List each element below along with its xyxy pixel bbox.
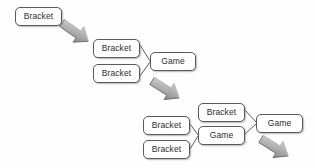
connector-line-s3-mid-top <box>245 110 256 122</box>
connector-group-stage-2 <box>140 45 150 76</box>
connector-line-s3-left-bottom <box>190 136 198 149</box>
node-bracket-stage2-top[interactable]: Bracket <box>93 39 140 58</box>
arrow-shape-2 <box>147 73 184 106</box>
stage-transition-arrow-1 <box>57 15 94 49</box>
node-game-stage3-right[interactable]: Game <box>256 114 303 133</box>
node-label: Bracket <box>207 108 237 117</box>
node-label: Game <box>210 131 234 140</box>
node-bracket-stage2-bottom[interactable]: Bracket <box>93 64 140 83</box>
node-game-stage3-mid[interactable]: Game <box>198 126 245 145</box>
node-game-stage2[interactable]: Game <box>150 52 196 71</box>
node-label: Bracket <box>102 44 132 53</box>
stage-transition-arrow-2 <box>147 73 184 106</box>
node-label: Game <box>161 57 185 66</box>
arrow-shape-3 <box>256 131 293 164</box>
node-label: Bracket <box>24 12 54 20</box>
connector-line-s3-mid-bottom <box>245 124 256 134</box>
node-bracket-stage3-mid[interactable]: Bracket <box>198 103 245 122</box>
arrow-shape-1 <box>57 15 94 49</box>
node-label: Bracket <box>152 145 182 154</box>
node-bracket-stage3-left-bottom[interactable]: Bracket <box>143 140 190 159</box>
node-bracket-stage1[interactable]: Bracket <box>15 7 62 26</box>
connector-line-s3-left-top <box>190 124 198 135</box>
connector-line-s2-bottom <box>140 62 150 76</box>
connector-line-s2-top <box>140 45 150 61</box>
node-label: Bracket <box>152 121 182 130</box>
stage-transition-arrow-3 <box>256 131 293 164</box>
node-label: Game <box>268 119 292 128</box>
node-bracket-stage3-left-top[interactable]: Bracket <box>143 116 190 135</box>
node-label: Bracket <box>102 69 132 78</box>
diagram-canvas: Bracket Bracket Bracket Game Bracket Bra… <box>0 0 315 168</box>
